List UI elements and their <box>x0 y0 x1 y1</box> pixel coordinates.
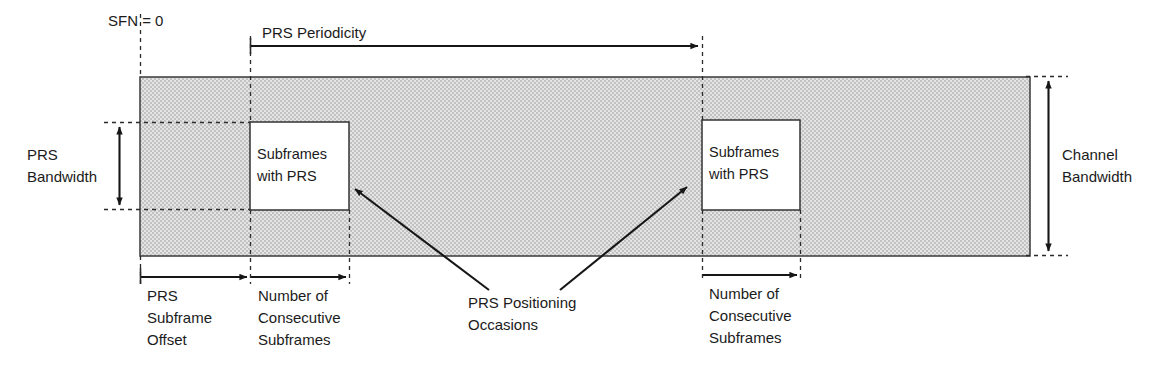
prs-subframe-offset-label-line2: Subframe <box>147 309 212 326</box>
prs-subframe-offset-label-line1: PRS <box>147 287 178 304</box>
consecutive-subframes-label-1-line2: Consecutive <box>258 309 341 326</box>
prs-subframe-offset-label-line3: Offset <box>147 331 188 348</box>
prs-positioning-occasions-label-line2: Occasions <box>468 316 538 333</box>
prs-timing-diagram: SFN = 0 PRS Periodicity PRS Bandwidth Ch… <box>0 0 1174 372</box>
prs-periodicity-label: PRS Periodicity <box>262 24 367 41</box>
prs-bandwidth-label-line2: Bandwidth <box>27 168 97 185</box>
subframes-with-prs-box-1 <box>250 122 349 210</box>
sfn-zero-label: SFN = 0 <box>108 12 163 29</box>
subframes-with-prs-box-2 <box>702 120 800 210</box>
consecutive-subframes-label-2-line2: Consecutive <box>709 307 792 324</box>
prs-bandwidth-label-line1: PRS <box>27 146 58 163</box>
prs-positioning-occasions-label-line1: PRS Positioning <box>468 294 576 311</box>
subframes-with-prs-label-2-line2: with PRS <box>708 166 769 182</box>
subframes-with-prs-label-1-line1: Subframes <box>257 146 327 162</box>
channel-bandwidth-label-line2: Bandwidth <box>1062 168 1132 185</box>
diagram-canvas: SFN = 0 PRS Periodicity PRS Bandwidth Ch… <box>0 0 1174 372</box>
consecutive-subframes-label-2-line1: Number of <box>709 285 780 302</box>
consecutive-subframes-label-1-line3: Subframes <box>258 331 331 348</box>
consecutive-subframes-label-2-line3: Subframes <box>709 329 782 346</box>
consecutive-subframes-label-1-line1: Number of <box>258 287 329 304</box>
channel-bandwidth-label-line1: Channel <box>1062 146 1118 163</box>
subframes-with-prs-label-1-line2: with PRS <box>256 168 317 184</box>
subframes-with-prs-label-2-line1: Subframes <box>709 144 779 160</box>
